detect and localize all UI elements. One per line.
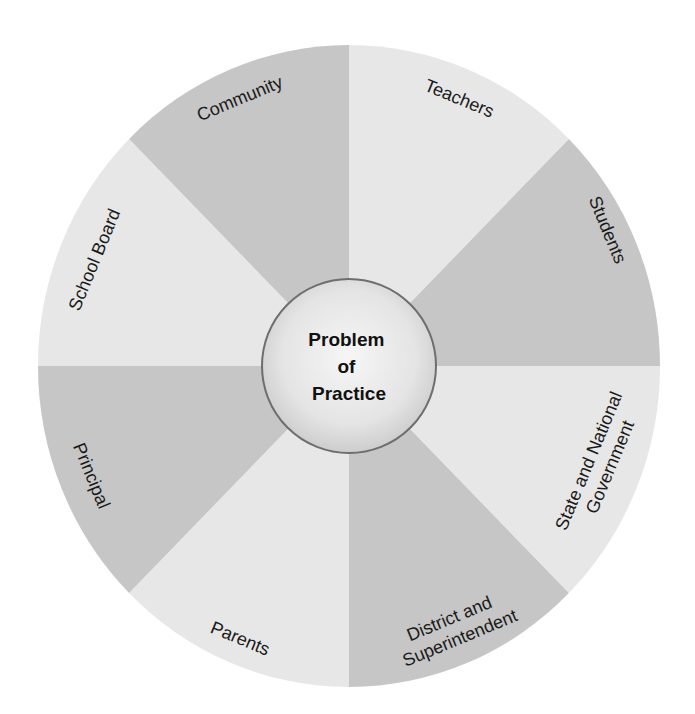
center-hub: Problem of Practice (262, 279, 436, 453)
stakeholder-wheel-diagram: Teachers Students State and National Gov… (0, 0, 695, 714)
